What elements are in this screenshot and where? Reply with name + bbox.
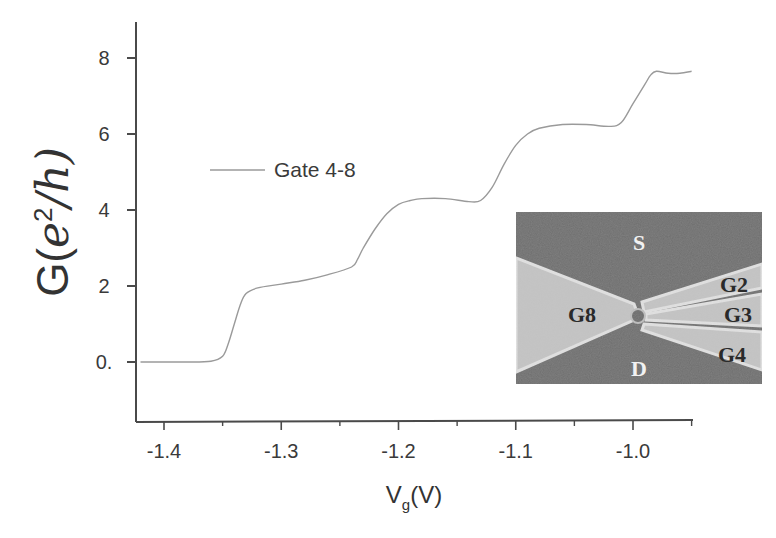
y-tick-label: 0. [96,351,113,373]
x-ticks: -1.4-1.3-1.2-1.1-1.0 [147,421,692,462]
y-axis-title: G(e2/h) [27,147,78,297]
quantum-point-contact [631,309,645,323]
y-tick-label: 4 [98,199,109,221]
inset-micrograph: S D G8 G2 G3 G4 [516,212,762,384]
y-tick-label: 6 [98,123,109,145]
legend-label: Gate 4-8 [274,158,356,181]
inset-label-g3: G3 [724,302,752,327]
x-axis [136,420,693,422]
x-axis-title: Vg(V) [386,481,442,513]
x-tick-label: -1.0 [616,440,650,462]
x-tick-label: -1.4 [147,440,181,462]
inset-label-g4: G4 [718,342,746,367]
y-tick-label: 2 [98,275,109,297]
inset-label-d: D [631,356,647,381]
inset-label-g8: G8 [568,302,596,327]
x-tick-label: -1.3 [264,440,298,462]
inset-label-g2: G2 [720,272,748,297]
x-tick-label: -1.2 [381,440,415,462]
inset-label-s: S [633,230,645,255]
legend: Gate 4-8 [210,158,356,181]
y-tick-label: 8 [98,47,109,69]
chart: 0.2468 -1.4-1.3-1.2-1.1-1.0 G(e2/h) Vg(V… [0,0,776,538]
y-ticks: 0.2468 [96,47,136,373]
x-tick-label: -1.1 [499,440,533,462]
